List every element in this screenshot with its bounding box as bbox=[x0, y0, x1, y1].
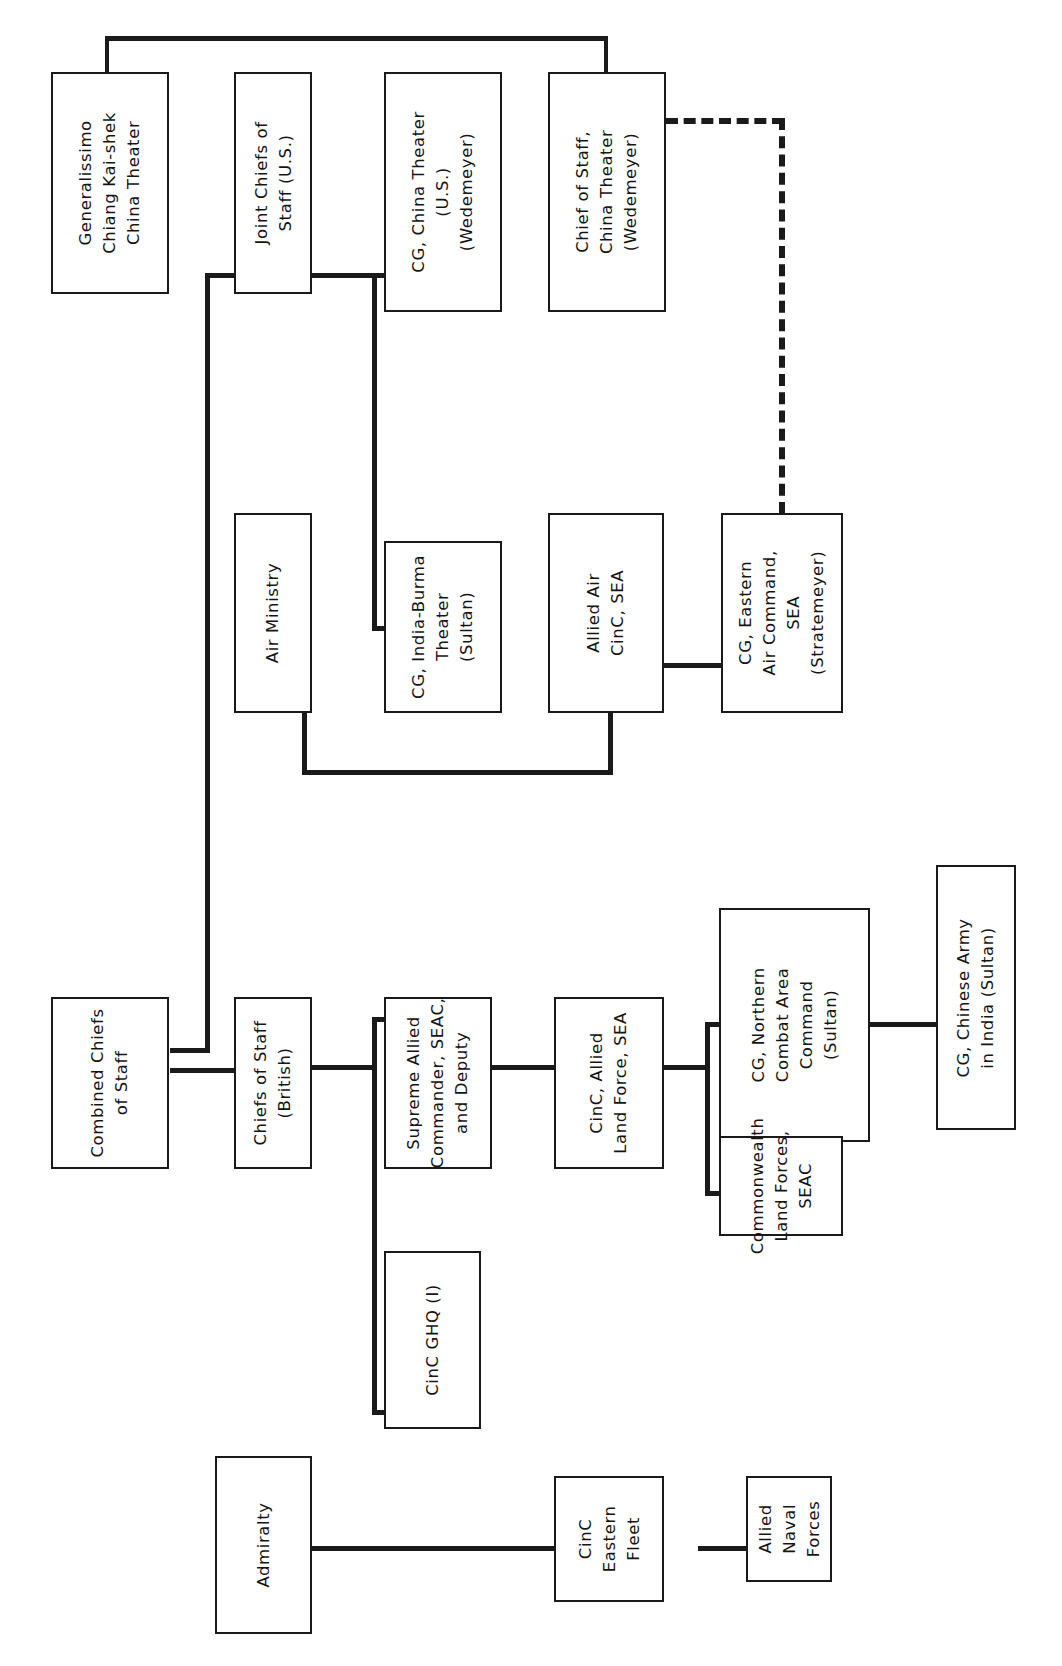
box-cinc-ghq-india[interactable]: CinC GHQ (I) bbox=[384, 1251, 481, 1429]
box-label: Allied Naval Forces bbox=[753, 1501, 825, 1558]
connector-cos-british-right-stub bbox=[312, 1065, 376, 1070]
box-cg-china-theater[interactable]: CG, China Theater (U.S.) (Wedemeyer) bbox=[384, 72, 502, 312]
box-label: CG, China Theater (U.S.) (Wedemeyer) bbox=[407, 111, 479, 273]
box-label: CinC GHQ (I) bbox=[421, 1284, 445, 1396]
box-label: CG, Chinese Army in India (Sultan) bbox=[952, 918, 1000, 1077]
box-label: Supreme Allied Commander, SEAC, and Depu… bbox=[402, 998, 474, 1169]
connector-combined-chiefs-stub bbox=[170, 1048, 210, 1053]
box-allied-air-cinc-sea[interactable]: Allied Air CinC, SEA bbox=[548, 513, 664, 713]
box-label: Admiralty bbox=[252, 1502, 276, 1587]
connector-cos-china-up bbox=[604, 36, 608, 72]
box-label: Joint Chiefs of Staff (U.S.) bbox=[249, 122, 297, 245]
connector-dashed-cos-china-vertical bbox=[779, 118, 785, 514]
connector-cos-british-left-stub bbox=[170, 1068, 234, 1073]
box-label: Air Ministry bbox=[261, 563, 285, 664]
connector-air-ministry-across bbox=[302, 770, 613, 775]
box-commonwealth-land-forces-seac[interactable]: Commonwealth Land Forces, SEAC bbox=[719, 1136, 843, 1236]
box-label: CinC Eastern Fleet bbox=[573, 1506, 645, 1573]
connector-allied-air-cinc-up bbox=[608, 713, 613, 775]
box-label: Allied Air CinC, SEA bbox=[582, 570, 630, 656]
org-chart-canvas: Generalissimo Chiang Kai-shek China Thea… bbox=[0, 0, 1062, 1666]
box-cg-northern-combat-area-command[interactable]: CG, Northern Combat Area Command (Sultan… bbox=[719, 908, 870, 1142]
connector-eastern-fleet-to-naval-forces bbox=[698, 1546, 746, 1551]
box-label: Commonwealth Land Forces, SEAC bbox=[745, 1118, 817, 1255]
box-cinc-eastern-fleet[interactable]: CinC Eastern Fleet bbox=[554, 1476, 664, 1602]
connector-land-force-bracket bbox=[705, 1022, 710, 1196]
connector-jcs-trunk-vertical bbox=[372, 273, 377, 631]
box-cg-chinese-army-in-india[interactable]: CG, Chinese Army in India (Sultan) bbox=[936, 865, 1016, 1130]
connector-ncac-to-chinese-army bbox=[870, 1022, 936, 1027]
connector-air-ministry-down bbox=[302, 713, 307, 775]
box-combined-chiefs-of-staff[interactable]: Combined Chiefs of Staff bbox=[51, 997, 169, 1169]
connector-jcs-long-vertical bbox=[205, 273, 210, 1053]
connector-top-bracket bbox=[105, 36, 608, 41]
box-label: Chiefs of Staff (British) bbox=[249, 1020, 297, 1145]
box-generalissimo[interactable]: Generalissimo Chiang Kai-shek China Thea… bbox=[51, 72, 169, 294]
connector-seac-trunk-vertical bbox=[372, 1017, 377, 1415]
box-chief-of-staff-china-theater[interactable]: Chief of Staff, China Theater (Wedemeyer… bbox=[548, 72, 666, 312]
box-cinc-allied-land-force-sea[interactable]: CinC, Allied Land Force, SEA bbox=[554, 997, 664, 1169]
connector-land-force-right-stub bbox=[664, 1065, 709, 1070]
connector-dashed-cos-china-horizontal bbox=[666, 118, 784, 124]
box-label: CG, India-Burma Theater (Sultan) bbox=[407, 555, 479, 699]
box-admiralty[interactable]: Admiralty bbox=[215, 1456, 312, 1634]
box-allied-naval-forces[interactable]: Allied Naval Forces bbox=[746, 1476, 832, 1582]
box-label: CG, Eastern Air Command, SEA (Stratemeye… bbox=[734, 550, 830, 675]
box-chiefs-of-staff-british[interactable]: Chiefs of Staff (British) bbox=[234, 997, 312, 1169]
box-label: Chief of Staff, China Theater (Wedemeyer… bbox=[571, 130, 643, 254]
connector-admiralty-to-eastern-fleet bbox=[312, 1546, 554, 1551]
connector-jcs-right-stub bbox=[312, 273, 376, 278]
box-cg-india-burma-theater[interactable]: CG, India-Burma Theater (Sultan) bbox=[384, 541, 502, 713]
box-supreme-allied-commander-seac[interactable]: Supreme Allied Commander, SEAC, and Depu… bbox=[384, 997, 492, 1169]
connector-supreme-to-land-force bbox=[492, 1065, 554, 1070]
box-label: CinC, Allied Land Force, SEA bbox=[585, 1012, 633, 1154]
box-air-ministry[interactable]: Air Ministry bbox=[234, 513, 312, 713]
box-label: Combined Chiefs of Staff bbox=[86, 1008, 134, 1157]
box-cg-eastern-air-command-sea[interactable]: CG, Eastern Air Command, SEA (Stratemeye… bbox=[721, 513, 843, 713]
connector-generalissimo-up bbox=[105, 36, 109, 72]
box-label: Generalissimo Chiang Kai-shek China Thea… bbox=[74, 112, 146, 254]
box-joint-chiefs-of-staff[interactable]: Joint Chiefs of Staff (U.S.) bbox=[234, 72, 312, 294]
connector-allied-air-to-eastern-air bbox=[664, 663, 721, 668]
box-label: CG, Northern Combat Area Command (Sultan… bbox=[747, 967, 843, 1082]
